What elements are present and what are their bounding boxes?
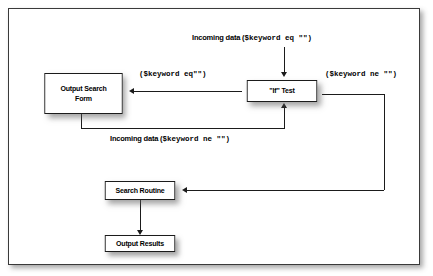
edge-label-incoming-ne: Incoming data ($keyword ne ""): [110, 134, 230, 143]
edge-eq-branch-line: [134, 91, 242, 92]
node-if-test[interactable]: "If" Test: [247, 80, 317, 102]
edge-incoming-ne-segment-right: [81, 128, 284, 129]
edge-incoming-eq-arrowhead: [281, 72, 287, 77]
node-output-results[interactable]: Output Results: [105, 235, 175, 252]
node-output-search-form[interactable]: Output Search Form: [44, 73, 122, 114]
diagram-frame: Incoming data ($keyword eq "") ($keyword…: [8, 8, 420, 265]
node-output-search-form-label: Output Search Form: [60, 84, 106, 102]
edge-label-incoming-ne-code: $keyword ne ""): [162, 135, 230, 143]
edge-ne-branch-segment-down: [384, 94, 385, 190]
diagram-canvas: Incoming data ($keyword eq "") ($keyword…: [0, 0, 433, 276]
edge-label-incoming-ne-prefix: Incoming data (: [110, 134, 162, 143]
edge-results-line: [140, 200, 141, 230]
edge-ne-branch-segment-left: [187, 190, 384, 191]
edge-incoming-ne-segment-down: [81, 114, 82, 129]
node-search-routine[interactable]: Search Routine: [105, 181, 175, 200]
edge-label-ne-branch: ($keyword ne ""): [325, 70, 397, 78]
edge-label-incoming-eq: Incoming data ($keyword eq ""): [192, 33, 312, 42]
edge-incoming-ne-arrowhead: [281, 103, 287, 108]
node-output-results-label: Output Results: [116, 239, 164, 248]
edge-incoming-eq-line: [284, 47, 285, 72]
edge-incoming-ne-segment-up: [284, 108, 285, 129]
edge-label-eq-branch: ($keyword eq""): [139, 70, 207, 78]
edge-ne-branch-segment-right: [322, 94, 384, 95]
edge-label-incoming-eq-prefix: Incoming data (: [192, 33, 244, 42]
node-if-test-label: "If" Test: [269, 86, 294, 95]
edge-label-incoming-eq-code: $keyword eq ""): [244, 34, 312, 42]
edge-eq-branch-arrowhead: [129, 88, 134, 94]
edge-ne-branch-arrowhead: [182, 187, 187, 193]
node-search-routine-label: Search Routine: [115, 186, 164, 195]
